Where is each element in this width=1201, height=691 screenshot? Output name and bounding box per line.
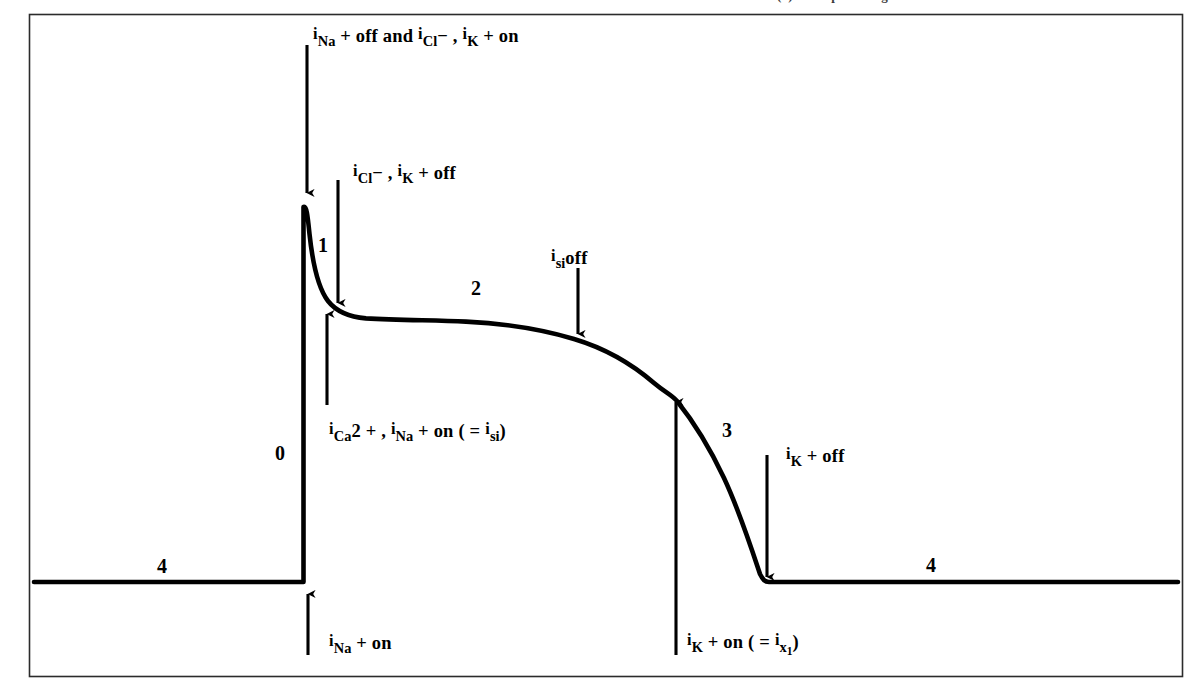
annotation-ina-off-icl-ik-on: iNa + off and iCl− , iK + on	[313, 26, 519, 48]
annotation-ik-off: iK + off	[786, 446, 845, 468]
annotation-ik-on-ix1: iK + on ( = ix1)	[687, 632, 799, 657]
figure-border	[30, 15, 1183, 677]
annotation-ina-on: iNa + on	[329, 633, 392, 655]
phase-label-2: 2	[471, 278, 481, 298]
phase-label-4-left: 4	[157, 556, 167, 576]
annotation-ica-ina-on-isi: iCa2 + , iNa + on ( = isi)	[329, 421, 506, 443]
phase-label-4-right: 4	[926, 555, 936, 575]
phase-label-0: 0	[275, 443, 285, 463]
annotation-icl-ik-off: iCl− , iK + off	[353, 163, 456, 185]
action-potential-figure: ward current (i ) and repolarizing iNa +…	[0, 0, 1201, 691]
figure-canvas	[0, 0, 1201, 691]
annotation-isi-off: isioff	[551, 248, 588, 270]
action-potential-trace	[34, 207, 1178, 582]
phase-label-3: 3	[722, 420, 732, 440]
phase-label-1: 1	[318, 235, 328, 255]
